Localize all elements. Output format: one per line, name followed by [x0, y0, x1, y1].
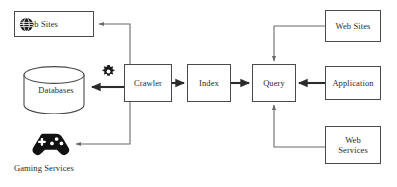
node-websites-right[interactable]: Web Sites [325, 10, 381, 42]
node-databases[interactable]: Databases [22, 66, 86, 114]
node-label: Web Services [336, 135, 370, 155]
node-index[interactable]: Index [187, 64, 231, 102]
node-label: Web Sites [334, 21, 373, 31]
globe-icon [19, 17, 34, 32]
node-label: Application [330, 78, 375, 88]
gaming-services-label: Gaming Services [14, 163, 104, 173]
edge-crawler-to-websites-left [99, 24, 130, 64]
gear-icon [101, 64, 116, 79]
node-application[interactable]: Application [325, 66, 381, 100]
edge-websites-right-to-query [274, 26, 325, 61]
node-label: Crawler [132, 78, 164, 88]
node-websites-left[interactable]: Web Sites [14, 11, 94, 37]
node-query[interactable]: Query [252, 64, 296, 102]
node-label: Query [261, 78, 287, 88]
node-label: Index [197, 78, 221, 88]
diagram-canvas: Web Sites Databases Crawler Index Query … [0, 0, 397, 187]
node-crawler[interactable]: Crawler [124, 64, 172, 102]
gamepad-icon[interactable] [26, 131, 72, 157]
node-label: Databases [22, 66, 90, 114]
node-webservices[interactable]: Web Services [325, 126, 381, 164]
edge-webservices-to-query [274, 105, 325, 147]
